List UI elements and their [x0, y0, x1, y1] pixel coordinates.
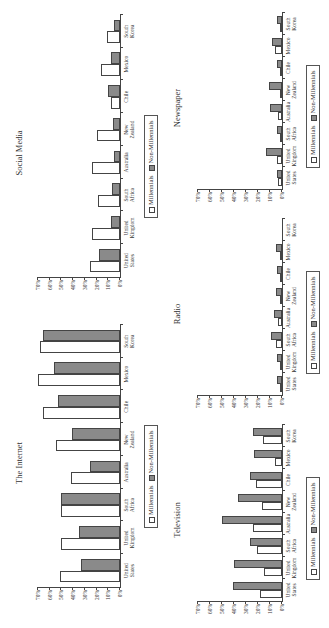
y-tick-label: 20% — [255, 398, 261, 408]
bar-group: United States — [198, 373, 282, 395]
rotated-page: The Internet 0%10%20%30%40%50%60%70%Unit… — [0, 0, 329, 628]
bar-group: South Korea — [38, 325, 120, 358]
y-tick-mark — [245, 601, 246, 604]
plot-area: 0%10%20%30%40%50%60%70%United StatesUnit… — [38, 15, 121, 278]
bar-millennials — [253, 524, 282, 532]
x-category-label: New Zealand — [123, 423, 135, 456]
bar-millennials — [61, 538, 120, 550]
bar-non-millennials — [277, 170, 282, 178]
bar-millennials — [277, 156, 282, 164]
y-tick-label: 60% — [207, 604, 213, 614]
bar-millennials — [92, 162, 120, 174]
bar-millennials — [275, 46, 282, 54]
x-category-label: United States — [285, 373, 297, 395]
bar-group: Chile — [38, 391, 120, 424]
bar-millennials — [260, 590, 282, 598]
x-tick-mark — [120, 14, 123, 15]
y-tick-label: 0% — [279, 192, 285, 199]
y-tick-mark — [269, 189, 270, 192]
non-millennials-swatch-icon — [311, 527, 317, 533]
bar-group: Australia — [38, 456, 120, 489]
plot-area: 0%10%20%30%40%50%60%70%United StatesUnit… — [198, 13, 283, 190]
y-tick-mark — [257, 601, 258, 604]
bar-non-millennials — [90, 461, 120, 473]
y-tick-mark — [245, 395, 246, 398]
y-tick-label: 50% — [219, 192, 225, 202]
bar-non-millennials — [276, 244, 282, 252]
x-category-label: Chile — [123, 81, 129, 114]
bar-non-millennials — [111, 52, 120, 64]
bar-millennials — [56, 440, 120, 452]
y-tick-label: 50% — [219, 398, 225, 408]
y-tick-mark — [119, 277, 120, 280]
non-millennials-swatch-icon — [149, 475, 155, 481]
y-tick-mark — [37, 587, 38, 590]
y-tick-mark — [221, 189, 222, 192]
bar-millennials — [280, 384, 282, 392]
x-category-label: United Kingdom — [123, 522, 135, 555]
y-tick-mark — [37, 277, 38, 280]
x-category-label: South Korea — [123, 15, 135, 48]
y-tick-mark — [233, 601, 234, 604]
chart-title: Television — [172, 420, 182, 620]
bar-non-millennials — [72, 428, 120, 440]
y-tick-mark — [107, 587, 108, 590]
legend-non-millennials: Non-Millennials — [309, 70, 317, 121]
bar-non-millennials — [254, 450, 282, 458]
y-tick-mark — [84, 587, 85, 590]
bar-group: United Kingdom — [198, 351, 282, 373]
bar-group: South Korea — [198, 425, 282, 447]
bar-millennials — [111, 97, 120, 109]
x-category-label: South Africa — [123, 489, 135, 522]
bar-millennials — [280, 90, 282, 98]
plot-area: 0%10%20%30%40%50%60%70%United StatesUnit… — [198, 219, 283, 396]
bar-group: New Zealand — [198, 285, 282, 307]
x-category-label: Australia — [285, 307, 291, 329]
legend-millennials: Millennials — [309, 331, 317, 369]
bar-non-millennials — [277, 266, 282, 274]
bar-millennials — [280, 68, 282, 76]
bar-non-millennials — [277, 354, 282, 362]
x-category-label: United Kingdom — [285, 351, 297, 373]
bar-non-millennials — [58, 395, 120, 407]
non-millennials-swatch-icon — [311, 115, 317, 121]
y-tick-mark — [221, 601, 222, 604]
y-tick-mark — [233, 395, 234, 398]
y-tick-mark — [96, 587, 97, 590]
y-tick-mark — [197, 189, 198, 192]
bar-group: South Africa — [198, 123, 282, 145]
y-tick-label: 10% — [105, 590, 111, 600]
x-category-label: United States — [285, 167, 297, 189]
y-tick-label: 70% — [35, 280, 41, 290]
legend-non-millennials: Non-Millennials — [309, 276, 317, 327]
bar-non-millennials — [233, 582, 282, 590]
bar-group: United States — [198, 167, 282, 189]
y-tick-label: 40% — [70, 280, 76, 290]
x-category-label: Australia — [285, 101, 291, 123]
bar-group: United States — [198, 579, 282, 601]
legend-non-millennials: Non-Millennials — [147, 430, 155, 481]
x-category-label: Mexico — [285, 447, 291, 469]
y-tick-mark — [209, 601, 210, 604]
bar-group: South Africa — [198, 535, 282, 557]
x-category-label: Mexico — [285, 241, 291, 263]
bar-group: Australia — [38, 146, 120, 179]
bar-non-millennials — [277, 60, 282, 68]
chart-title: Social Media — [14, 8, 24, 298]
x-category-label: Mexico — [123, 358, 129, 391]
y-tick-mark — [49, 277, 50, 280]
bar-millennials — [98, 195, 120, 207]
bar-non-millennials — [277, 16, 282, 24]
y-tick-label: 40% — [231, 604, 237, 614]
y-tick-mark — [96, 277, 97, 280]
bar-non-millennials — [266, 148, 282, 156]
bar-millennials — [61, 505, 120, 517]
bar-millennials — [278, 318, 282, 326]
y-tick-mark — [281, 395, 282, 398]
bar-group: Australia — [198, 307, 282, 329]
chart-title: Radio — [172, 214, 182, 414]
bar-millennials — [280, 134, 282, 142]
bar-millennials — [101, 64, 120, 76]
bar-millennials — [263, 436, 282, 444]
y-tick-label: 20% — [94, 280, 100, 290]
